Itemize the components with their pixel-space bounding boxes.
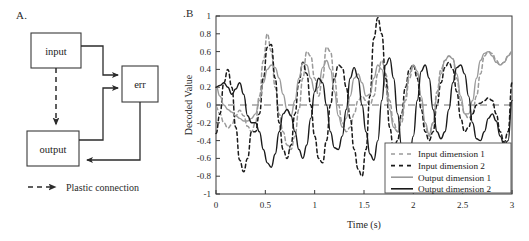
- node-err: err: [122, 66, 158, 102]
- y-tick-label: 0.4: [200, 64, 212, 74]
- plastic-connection-legend-label: Plastic connection: [66, 182, 139, 193]
- node-input: input: [31, 33, 81, 68]
- edge-input-to-err: [81, 46, 118, 75]
- edge-output-to-err: [79, 88, 118, 140]
- x-axis-title: Time (s): [347, 219, 381, 231]
- x-tick-label: 1.5: [358, 200, 370, 210]
- node-output-label: output: [40, 144, 67, 155]
- x-tick-label: 3: [510, 200, 515, 210]
- legend-label-1: Input dimension 1: [418, 149, 485, 159]
- y-tick-label: -1: [204, 189, 212, 199]
- decoded-value-timeseries-chart: 10.80.60.40.20-0.2-0.4-0.6-0.8-1 00.511.…: [180, 0, 529, 241]
- figure-container: A. input err output: [0, 0, 529, 241]
- panel-a-diagram: A. input err output: [0, 0, 180, 241]
- y-tick-label: 1: [207, 11, 212, 21]
- y-tick-label: 0.8: [200, 29, 212, 39]
- x-tick-label: 0.5: [260, 200, 272, 210]
- x-tick-label: 0: [214, 200, 219, 210]
- legend-label-3: Output dimension 1: [418, 173, 491, 183]
- node-err-label: err: [134, 79, 146, 90]
- node-output: output: [27, 131, 79, 166]
- node-input-label: input: [45, 46, 67, 57]
- panel-b-chart: .B 10.80.60.40.20-0.2-0.4-0.6-0.8-1 00.5…: [180, 0, 529, 241]
- x-tick-label: 2: [411, 200, 416, 210]
- legend-label-4: Output dimension 2: [418, 184, 491, 194]
- x-tick-label: 2.5: [457, 200, 469, 210]
- chart-legend: Input dimension 1Input dimension 2Output…: [385, 143, 511, 194]
- y-tick-label: 0: [207, 100, 212, 110]
- legend-label-2: Input dimension 2: [418, 161, 485, 171]
- y-tick-label: 0.6: [200, 47, 212, 57]
- y-tick-label: -0.4: [197, 136, 212, 146]
- y-tick-label: 0.2: [200, 82, 211, 92]
- x-tick-label: 1: [312, 200, 317, 210]
- control-loop-diagram: input err output: [0, 0, 180, 241]
- y-tick-label: -0.2: [197, 118, 211, 128]
- y-axis-title: Decoded Value: [183, 74, 194, 135]
- y-tick-label: -0.8: [197, 171, 212, 181]
- y-tick-label: -0.6: [197, 153, 212, 163]
- edge-err-to-output: [87, 102, 140, 160]
